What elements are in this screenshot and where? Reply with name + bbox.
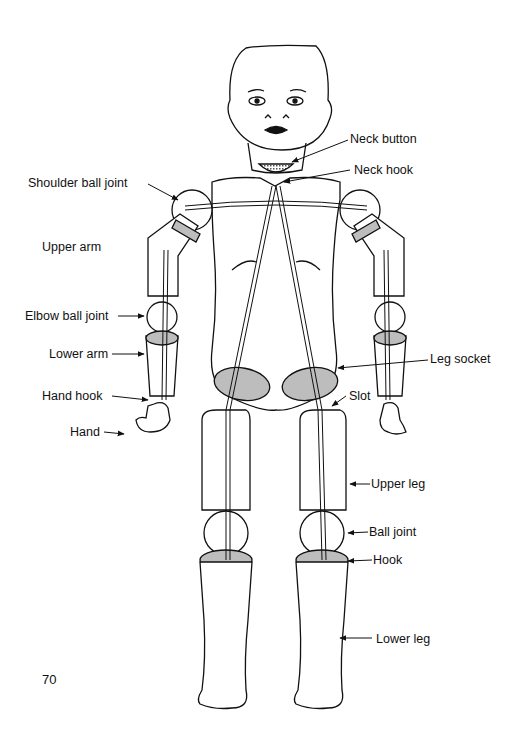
label-lower-leg: Lower leg [376,633,430,646]
label-elbow-ball-joint: Elbow ball joint [25,310,108,323]
label-ball-joint: Ball joint [369,526,416,539]
label-slot: Slot [349,390,371,403]
label-upper-leg: Upper leg [371,478,425,491]
label-neck-hook: Neck hook [354,164,413,177]
label-upper-arm: Upper arm [42,241,101,254]
lower-legs [198,562,348,709]
label-lower-arm: Lower arm [49,348,108,361]
torso [211,178,340,411]
doll-diagram [0,0,524,739]
label-leg-socket: Leg socket [430,353,490,366]
label-shoulder-ball-joint: Shoulder ball joint [28,177,127,190]
label-hook: Hook [373,554,402,567]
left-arm [136,190,212,432]
head [228,45,332,173]
label-hand-hook: Hand hook [42,390,102,403]
page-number: 70 [42,672,56,687]
label-neck-button: Neck button [350,133,417,146]
label-hand: Hand [70,426,100,439]
